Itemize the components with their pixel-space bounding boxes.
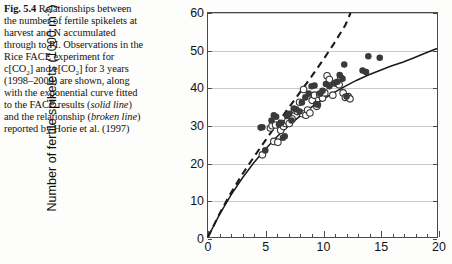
data-point-ambient-co2 [300, 86, 307, 93]
data-point-elevated-co2 [305, 90, 312, 97]
y-axis-tick-label: 10 [190, 194, 204, 208]
y-axis-title-exponent: -2 [43, 9, 53, 16]
chart: Number of fertile spikelets (1000 m-2) 0… [0, 0, 452, 264]
data-point-elevated-co2 [365, 53, 372, 60]
y-axis-tick-label: 60 [190, 6, 204, 20]
data-point-elevated-co2 [259, 124, 266, 131]
x-axis-tick-label: 5 [262, 240, 269, 254]
data-point-elevated-co2 [288, 117, 295, 124]
y-axis-title: Number of fertile spikelets (1000 m-2) [43, 0, 59, 222]
y-axis-tick-label: 20 [190, 157, 204, 171]
data-point-elevated-co2 [273, 114, 280, 121]
figure-page: Fig. 5.4 Relationships between the numbe… [0, 0, 452, 264]
x-axis-tick-label: 20 [432, 240, 446, 254]
y-axis-title-text: Number of fertile spikelets (1000 m [45, 16, 59, 211]
data-point-elevated-co2 [343, 93, 350, 100]
data-point-elevated-co2 [339, 75, 346, 82]
data-point-elevated-co2 [286, 111, 293, 118]
x-axis-tick-label: 10 [317, 240, 331, 254]
x-axis-major-tick [439, 231, 440, 237]
y-axis-tick-label: 0 [197, 232, 204, 246]
y-axis-tick-label: 40 [190, 81, 204, 95]
data-point-elevated-co2 [363, 69, 370, 76]
y-axis-tick-label: 30 [190, 119, 204, 133]
data-point-layer [208, 13, 437, 237]
data-point-elevated-co2 [319, 87, 326, 94]
x-axis-tick-label: 0 [205, 240, 212, 254]
x-axis-title-cropped [207, 257, 438, 264]
data-point-elevated-co2 [262, 147, 269, 154]
data-point-elevated-co2 [278, 119, 285, 126]
x-axis-tick-label: 15 [374, 240, 388, 254]
data-point-ambient-co2 [307, 110, 314, 117]
data-point-ambient-co2 [330, 92, 337, 99]
data-point-elevated-co2 [311, 82, 318, 89]
data-point-elevated-co2 [376, 55, 383, 62]
y-axis-tick-label: 50 [190, 44, 204, 58]
y-axis-title-suffix: ) [45, 5, 59, 9]
data-point-ambient-co2 [275, 139, 282, 146]
plot-frame: 0102030405060 05101520 c [CO2]e [CO2]Fit… [207, 12, 438, 238]
data-point-elevated-co2 [315, 102, 322, 109]
data-point-elevated-co2 [341, 61, 348, 68]
data-point-elevated-co2 [296, 108, 303, 115]
data-point-elevated-co2 [281, 133, 288, 140]
